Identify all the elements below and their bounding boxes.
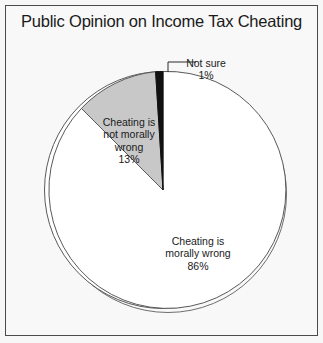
slice-label-not-morally-wrong-text: Cheating is not morally wrong <box>103 116 156 153</box>
slice-label-morally-wrong: Cheating is morally wrong 86% <box>143 222 253 285</box>
slice-label-not-morally-wrong-percent: 13% <box>91 153 167 166</box>
slice-label-morally-wrong-percent: 86% <box>143 260 253 273</box>
slice-label-not-sure-percent: 1% <box>163 69 249 82</box>
slice-label-not-sure-text: Not sure <box>186 57 226 69</box>
slice-label-not-sure: Not sure 1% <box>163 44 249 94</box>
pie-chart-figure: Public Opinion on Income Tax Cheating No… <box>0 0 323 343</box>
slice-label-not-morally-wrong: Cheating is not morally wrong 13% <box>91 103 167 178</box>
slice-label-morally-wrong-text: Cheating is morally wrong <box>165 235 230 260</box>
